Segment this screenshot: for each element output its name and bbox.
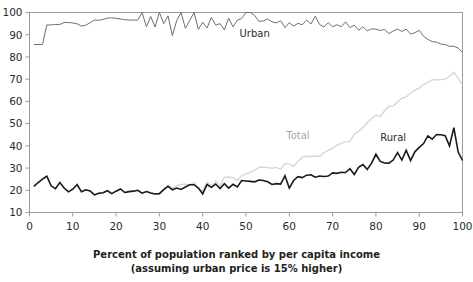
x-tick-label: 50 xyxy=(239,220,252,232)
data-series-group xyxy=(34,13,463,195)
y-tick-label: 50 xyxy=(9,117,22,129)
y-tick-label: 30 xyxy=(9,162,22,174)
y-axis-tick-marks xyxy=(26,13,30,213)
y-tick-label: 70 xyxy=(9,73,22,85)
x-tick-label: 30 xyxy=(153,220,166,232)
chart-container: 102030405060708090100 010203040506070809… xyxy=(0,0,473,282)
line-chart: 102030405060708090100 010203040506070809… xyxy=(0,0,473,282)
x-tick-label: 100 xyxy=(452,220,472,232)
y-tick-label: 80 xyxy=(9,51,22,63)
y-axis-tick-labels: 102030405060708090100 xyxy=(2,6,22,218)
x-tick-label: 60 xyxy=(283,220,296,232)
plot-frame xyxy=(30,13,463,213)
series-label-urban: Urban xyxy=(240,28,270,39)
x-tick-label: 70 xyxy=(326,220,339,232)
y-tick-label: 20 xyxy=(9,184,22,196)
x-axis-caption-secondary: (assuming urban price is 15% higher) xyxy=(131,263,343,274)
series-label-total: Total xyxy=(285,130,309,141)
x-tick-label: 90 xyxy=(413,220,426,232)
series-annotation-group: UrbanTotalRural xyxy=(240,28,407,143)
x-axis-tick-marks xyxy=(30,213,463,217)
y-tick-label: 10 xyxy=(9,206,22,218)
x-tick-label: 40 xyxy=(196,220,209,232)
x-axis-tick-labels: 0102030405060708090100 xyxy=(26,220,472,232)
y-tick-label: 100 xyxy=(2,6,22,18)
y-tick-label: 90 xyxy=(9,29,22,41)
x-tick-label: 0 xyxy=(26,220,33,232)
x-axis-caption-primary: Percent of population ranked by per capi… xyxy=(93,249,380,260)
x-tick-label: 80 xyxy=(369,220,382,232)
x-tick-label: 20 xyxy=(109,220,122,232)
series-label-rural: Rural xyxy=(380,132,406,143)
y-tick-label: 40 xyxy=(9,140,22,152)
x-tick-label: 10 xyxy=(66,220,79,232)
y-tick-label: 60 xyxy=(9,95,22,107)
